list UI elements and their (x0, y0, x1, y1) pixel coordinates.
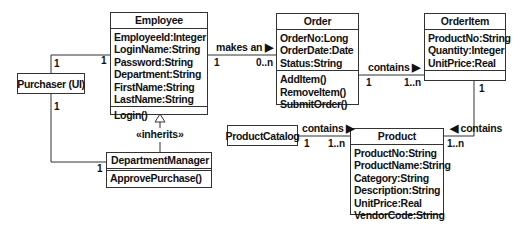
attribute: VendorCode:String (354, 209, 440, 221)
attributes-section: OrderNo:Long OrderDate:Date Status:Strin… (277, 30, 358, 70)
class-employee[interactable]: Employee EmployeeId:Integer LoginName:St… (110, 12, 208, 115)
mult-orderitem-product-from: 1 (479, 83, 485, 94)
class-name: Purchaser (UI) (17, 78, 85, 90)
attribute: ProductName:String (354, 159, 440, 171)
class-product-catalog[interactable]: ProductCatalog (227, 125, 298, 146)
class-name: Order (277, 14, 358, 30)
class-order-item[interactable]: OrderItem ProductNo:String Quantity:Inte… (424, 13, 506, 81)
assoc-label-orderitem-contains: ◀ contains (450, 122, 502, 134)
operation: Login() (114, 109, 204, 121)
class-purchaser[interactable]: Purchaser (UI) (17, 73, 85, 94)
operation: AddItem() (280, 73, 355, 85)
mult-catalog-product-from: 1 (304, 138, 310, 149)
class-department-manager[interactable]: DepartmentManager ApprovePurchase() (106, 152, 212, 188)
class-name: DepartmentManager (107, 153, 211, 171)
attribute: FirstName:String (114, 81, 204, 93)
class-name: OrderItem (425, 14, 505, 30)
operations-section: AddItem() RemoveItem() SubmitOrder() (277, 70, 358, 111)
assoc-label-catalog-contains: contains ▶ (302, 122, 354, 134)
class-name: Product (351, 129, 443, 145)
assoc-label-makes-an: makes an ▶ (216, 41, 273, 53)
class-name: ProductCatalog (226, 130, 300, 142)
attribute: Description:String (354, 184, 440, 196)
operation: RemoveItem() (280, 86, 355, 98)
mult-employee-order-from: 1 (214, 57, 220, 68)
class-order[interactable]: Order OrderNo:Long OrderDate:Date Status… (276, 13, 359, 105)
attribute: LoginName:String (114, 43, 204, 55)
attributes-section: ProductNo:String Quantity:Integer UnitPr… (425, 30, 505, 70)
mult-order-orderitem-from: 1 (366, 77, 372, 88)
attribute: OrderDate:Date (280, 44, 355, 56)
attribute: Quantity:Integer (428, 44, 502, 56)
attribute: UnitPrice:Real (354, 197, 440, 209)
attributes-section: EmployeeId:Integer LoginName:String Pass… (111, 29, 207, 106)
mult-purchaser-manager-purchaser: 1 (54, 101, 60, 112)
assoc-label-order-contains: contains ▶ (368, 61, 420, 73)
attribute: OrderNo:Long (280, 32, 355, 44)
mult-catalog-product-to: 1..n (328, 138, 345, 149)
attributes-section: ProductNo:String ProductName:String Cate… (351, 145, 443, 222)
mult-orderitem-product-to: 1..n (447, 138, 464, 149)
inheritance-label: «inherits» (136, 128, 184, 140)
operations-section: Login() (111, 106, 207, 122)
operation: ApprovePurchase() (110, 172, 208, 184)
attribute: Status:String (280, 57, 355, 69)
mult-employee-order-to: 0..n (256, 57, 273, 68)
class-product[interactable]: Product ProductNo:String ProductName:Str… (350, 128, 444, 215)
operations-section (425, 70, 505, 84)
attribute: Password:String (114, 56, 204, 68)
attribute: UnitPrice:Real (428, 57, 502, 69)
operation: SubmitOrder() (280, 98, 355, 110)
attribute: ProductNo:String (354, 147, 440, 159)
mult-purchaser-employee-purchaser: 1 (54, 58, 60, 69)
attribute: LastName:String (114, 93, 204, 105)
attribute: ProductNo:String (428, 32, 502, 44)
class-name: Employee (111, 13, 207, 29)
attribute: Category:String (354, 172, 440, 184)
mult-purchaser-manager-manager: 1 (97, 163, 103, 174)
mult-purchaser-employee-employee: 1 (101, 55, 107, 66)
attribute: Department:String (114, 68, 204, 80)
attribute: EmployeeId:Integer (114, 31, 204, 43)
mult-order-orderitem-to: 1..n (404, 77, 421, 88)
operations-section: ApprovePurchase() (107, 171, 211, 185)
